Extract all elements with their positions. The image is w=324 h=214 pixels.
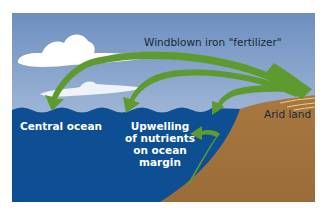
upwelling-label-line: on ocean	[124, 144, 196, 156]
upwelling-label: Upwelling of nutrients on ocean margin	[124, 120, 196, 168]
central-ocean-label: Central ocean	[20, 120, 102, 132]
windblown-iron-label: Windblown iron "fertilizer"	[144, 36, 282, 48]
upwelling-label-line: Upwelling	[124, 120, 196, 132]
arid-land-label: Arid land	[264, 108, 311, 120]
upwelling-label-line: margin	[124, 156, 196, 168]
iron-fertilization-diagram: Windblown iron "fertilizer" Arid land Ce…	[12, 13, 315, 202]
upwelling-label-line: of nutrients	[124, 132, 196, 144]
